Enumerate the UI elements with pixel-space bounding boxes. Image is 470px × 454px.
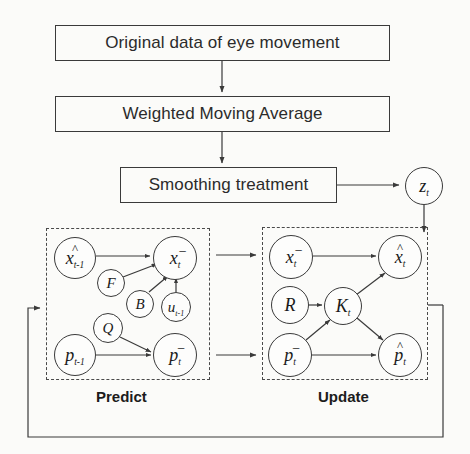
node-x-hat-t-minus-1[interactable]: ^xt‑1 [54, 237, 96, 279]
process-box-smoothing-treatment[interactable]: Smoothing treatment [120, 167, 337, 203]
node-label-p-prior-t: −pt [169, 346, 181, 364]
node-x-hat-t[interactable]: ^xt [378, 235, 422, 279]
process-box-weighted-moving-average[interactable]: Weighted Moving Average [55, 96, 390, 132]
node-label-B: B [135, 297, 144, 312]
node-B[interactable]: B [126, 290, 154, 318]
phase-label-predict: Predict [96, 388, 147, 405]
process-box-label: Weighted Moving Average [122, 104, 322, 124]
minus-superscript: − [177, 342, 185, 356]
process-box-label: Original data of eye movement [105, 33, 339, 53]
hat-accent: ^ [66, 242, 85, 255]
minus-superscript: − [179, 245, 187, 259]
node-p-hat-t[interactable]: ^pt [378, 333, 422, 377]
minus-superscript: − [292, 342, 300, 356]
hat-accent: ^ [394, 339, 406, 352]
node-Q[interactable]: Q [93, 313, 123, 343]
node-label-x-prior-t: −xt [170, 249, 181, 267]
node-label-x-hat-t: ^xt [395, 248, 406, 266]
node-u-t-minus-1[interactable]: ut‑1 [161, 292, 191, 322]
diagram-canvas: Original data of eye movement Weighted M… [0, 0, 470, 454]
node-label-x-prior-t-update: −xt [286, 248, 297, 266]
node-x-prior-t[interactable]: −xt [153, 236, 197, 280]
node-label-x-hat-t-minus-1: ^xt‑1 [66, 249, 85, 267]
node-z-t[interactable]: zt [405, 167, 443, 205]
node-label-K-t: Kt [336, 297, 351, 315]
process-box-original-data[interactable]: Original data of eye movement [55, 25, 390, 61]
node-label-u-t-minus-1: ut‑1 [168, 300, 184, 315]
node-p-prior-t[interactable]: −pt [153, 333, 197, 377]
node-x-prior-t-update[interactable]: −xt [269, 235, 313, 279]
node-label-Q: Q [103, 321, 114, 336]
node-label-z-t: zt [419, 177, 429, 195]
node-label-p-hat-t: ^pt [394, 346, 406, 364]
node-label-p-t-minus-1: pt‑1 [65, 346, 85, 364]
node-K-t[interactable]: Kt [324, 287, 362, 325]
process-box-label: Smoothing treatment [149, 175, 309, 195]
node-label-F: F [106, 276, 115, 291]
node-R[interactable]: R [271, 286, 309, 324]
node-label-p-prior-t-update: −pt [284, 346, 296, 364]
phase-label-update: Update [318, 388, 369, 405]
node-p-prior-t-update[interactable]: −pt [268, 333, 312, 377]
node-F[interactable]: F [97, 269, 125, 297]
node-p-t-minus-1[interactable]: pt‑1 [54, 334, 96, 376]
hat-accent: ^ [395, 241, 406, 254]
node-label-R: R [285, 296, 296, 314]
minus-superscript: − [295, 244, 303, 258]
